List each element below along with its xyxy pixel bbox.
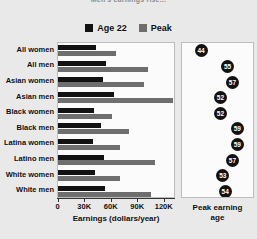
peak-age-axis-label-line1: Peak earning — [193, 203, 243, 212]
bar-peak — [58, 176, 120, 181]
chart-title-text: Men's earnings rise... — [0, 0, 257, 3]
peak-age-marker: 52 — [214, 91, 227, 104]
category-label: All men — [0, 61, 54, 69]
bar-peak — [58, 82, 144, 87]
peak-age-panel: 44555752525959575354 — [181, 42, 254, 198]
peak-age-marker: 53 — [216, 169, 229, 182]
peak-age-marker: 55 — [221, 60, 234, 73]
earnings-bar-panel — [57, 42, 175, 198]
legend-item-age22: Age 22 — [85, 24, 127, 33]
category-label: Black men — [0, 124, 54, 132]
peak-age-marker: 59 — [231, 122, 244, 135]
chart-legend: Age 22 Peak — [0, 20, 257, 36]
bar-peak — [58, 145, 120, 150]
legend-item-peak: Peak — [139, 24, 172, 33]
bar-peak — [58, 67, 148, 72]
bar-age22 — [58, 92, 114, 97]
bar-peak — [58, 51, 116, 56]
x-axis-tick-label: 30K — [77, 203, 91, 211]
category-label: Latino men — [0, 155, 54, 163]
legend-swatch-age22 — [85, 24, 93, 32]
bar-age22 — [58, 139, 93, 144]
peak-age-marker: 59 — [231, 138, 244, 151]
chart-figure: Men's earnings rise... Age 22 Peak All w… — [0, 0, 257, 239]
x-axis-tick-label: 120K — [155, 203, 173, 211]
x-axis-label: Earnings (dollars/year) — [57, 214, 175, 224]
bar-age22 — [58, 45, 96, 50]
category-label: Black women — [0, 108, 54, 116]
peak-age-marker: 54 — [219, 185, 232, 198]
bar-peak — [58, 129, 129, 134]
chart-title-clipped: Men's earnings rise... — [0, 0, 257, 7]
category-label: Asian men — [0, 93, 54, 101]
category-label: Asian women — [0, 77, 54, 85]
peak-age-marker: 57 — [226, 154, 239, 167]
category-label: White men — [0, 186, 54, 194]
category-axis-labels: All womenAll menAsian womenAsian menBlac… — [0, 42, 54, 198]
peak-age-marker: 57 — [226, 76, 239, 89]
bar-age22 — [58, 155, 104, 160]
bar-age22 — [58, 61, 106, 66]
legend-swatch-peak — [139, 24, 147, 32]
category-label: All women — [0, 46, 54, 54]
category-label: White women — [0, 171, 54, 179]
legend-label-peak: Peak — [151, 24, 172, 33]
bar-peak — [58, 98, 173, 103]
bar-peak — [58, 160, 155, 165]
legend-label-age22: Age 22 — [97, 24, 127, 33]
peak-age-marker: 44 — [195, 44, 208, 57]
bar-peak — [58, 114, 112, 119]
peak-age-axis-label: Peak earning age — [178, 203, 257, 223]
bar-age22 — [58, 170, 95, 175]
bar-age22 — [58, 77, 103, 82]
x-axis-tick-label: 0 — [56, 203, 60, 211]
x-axis-tick-label: 60K — [104, 203, 118, 211]
bar-age22 — [58, 186, 105, 191]
peak-age-marker: 52 — [214, 107, 227, 120]
bar-age22 — [58, 108, 94, 113]
x-axis-line — [57, 198, 175, 199]
x-axis-tick-label: 90K — [130, 203, 144, 211]
peak-age-axis-label-line2: age — [211, 213, 225, 222]
bar-peak — [58, 192, 151, 197]
category-label: Latina women — [0, 139, 54, 147]
bar-age22 — [58, 123, 101, 128]
